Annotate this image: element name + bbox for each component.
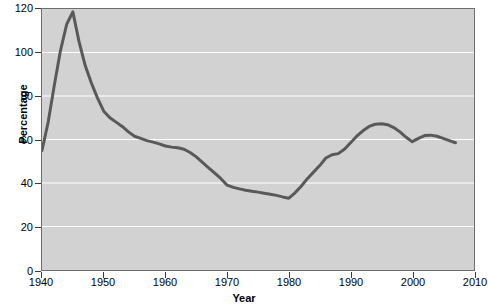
x-axis-title: Year (0, 292, 488, 304)
x-axis-tick-mark (289, 272, 290, 278)
x-axis-tick-mark (413, 272, 414, 278)
plot-area (41, 8, 475, 271)
x-axis-tick-mark (103, 272, 104, 278)
x-axis-tick-mark (165, 272, 166, 278)
x-axis-tick-mark (351, 272, 352, 278)
x-axis-tick-mark (41, 272, 42, 278)
y-axis-tick-mark (35, 8, 41, 9)
y-axis-tick-mark (35, 52, 41, 53)
y-axis-tick-label: 40 (21, 177, 33, 189)
y-axis-tick-label: 100 (15, 46, 33, 58)
x-axis-tick-mark (475, 272, 476, 278)
y-axis-tick-mark (35, 96, 41, 97)
y-axis-tick-label: 120 (15, 2, 33, 14)
y-axis-tick-label: 20 (21, 221, 33, 233)
y-axis-tick-mark (35, 140, 41, 141)
y-axis-tick-mark (35, 183, 41, 184)
y-axis-title: Percentage (17, 69, 29, 159)
line-chart: 020406080100120 Percentage Year 19401950… (0, 0, 488, 308)
y-axis-tick-mark (35, 227, 41, 228)
data-series-line (42, 9, 474, 270)
x-axis-tick-mark (227, 272, 228, 278)
